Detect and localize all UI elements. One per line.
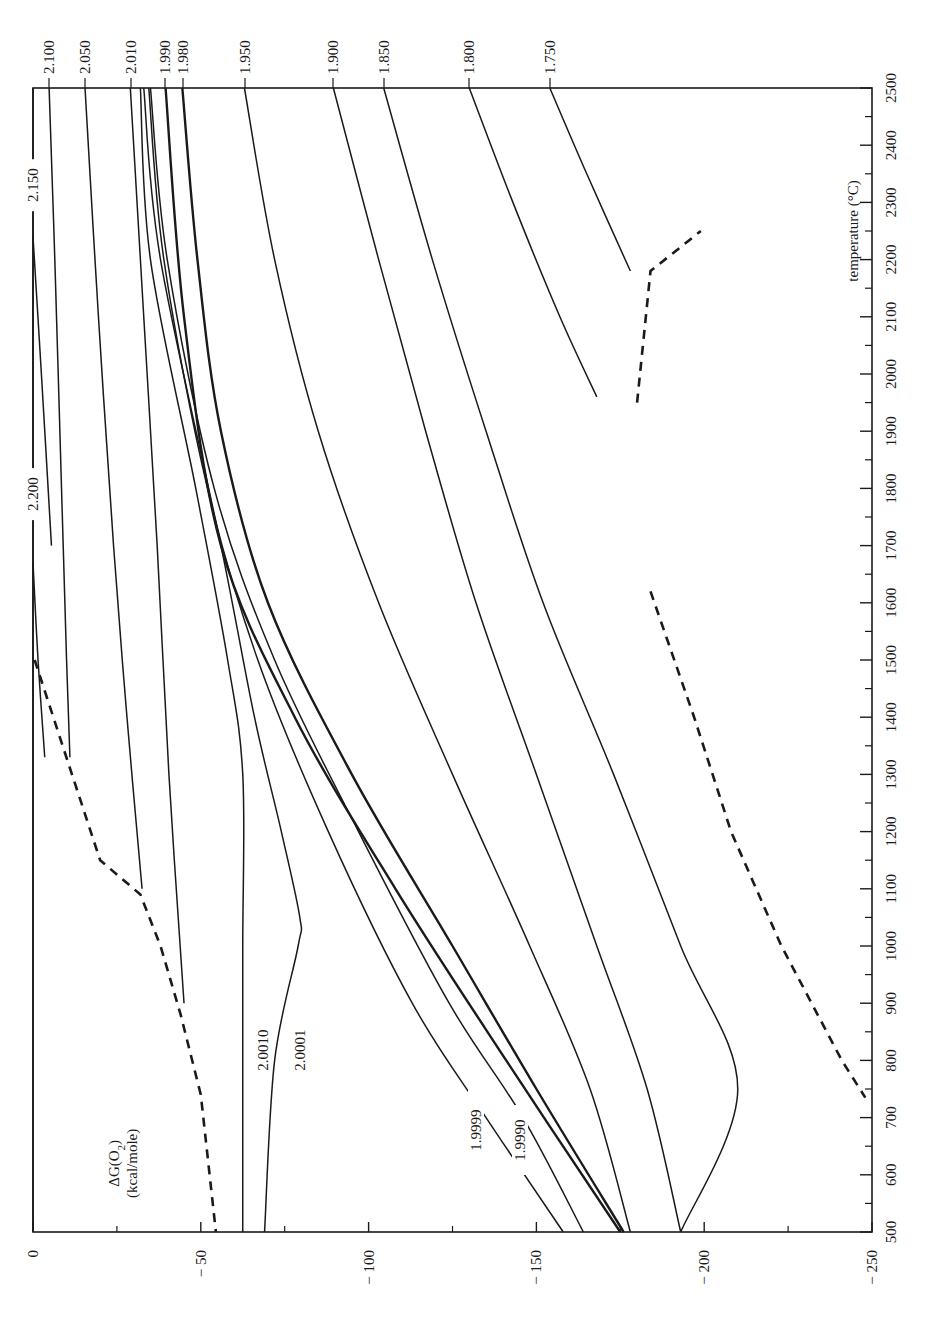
curve-label-inline: 2.0001 — [292, 1029, 308, 1070]
curve-label-top: 2.010 — [123, 40, 139, 74]
x-tick-label: 2200 — [883, 245, 899, 275]
curve-1.800 — [469, 88, 597, 397]
y-tick-label: − 50 — [193, 1250, 209, 1277]
y-tick-label: − 150 — [528, 1250, 544, 1285]
x-tick-label: 1200 — [883, 817, 899, 847]
curve-label-top: 1.750 — [542, 40, 558, 74]
x-tick-label: 1600 — [883, 588, 899, 618]
x-tick-label: 1300 — [883, 759, 899, 789]
x-tick-label: 1800 — [883, 473, 899, 503]
curve-label-inline: 1.9990 — [512, 1119, 528, 1160]
plot-frame — [33, 88, 872, 1232]
x-tick-label: 1500 — [883, 645, 899, 675]
curve-label-inline: 1.9999 — [468, 1109, 484, 1150]
y-tick-label: − 100 — [361, 1250, 377, 1285]
curve-label-top: 1.950 — [237, 40, 253, 74]
x-tick-label: 800 — [883, 1049, 899, 1072]
curve-2.100 — [49, 88, 70, 757]
x-tick-label: 1400 — [883, 702, 899, 732]
x-tick-label: 900 — [883, 992, 899, 1015]
curve-label-top: 1.990 — [157, 40, 173, 74]
x-tick-label: 2000 — [883, 359, 899, 389]
curve-layer — [33, 88, 865, 1232]
x-tick-label: 600 — [883, 1164, 899, 1187]
phase-boundary-dashed — [651, 591, 866, 1097]
curve-label-top: 1.980 — [175, 40, 191, 74]
curve-label-top: 2.100 — [41, 40, 57, 74]
x-tick-label: 1900 — [883, 416, 899, 446]
curve-1.990 — [166, 88, 621, 1232]
axis-ticks: 0− 50− 100− 150− 200− 250500600700800900… — [25, 73, 899, 1285]
chart-canvas: 0− 50− 100− 150− 200− 250500600700800900… — [0, 0, 933, 1325]
y-tick-label: − 200 — [696, 1250, 712, 1285]
curve-2.050 — [85, 88, 142, 889]
y-tick-label: 0 — [25, 1250, 41, 1258]
curve-label-edge: 2.200 — [25, 477, 41, 511]
label-layer: temperature (°C)ΔG(O2)(kcal/mole)2.1002.… — [25, 40, 862, 1198]
curve-label-top: 2.050 — [77, 40, 93, 74]
curve-label-top: 1.900 — [325, 40, 341, 74]
y-tick-label: − 250 — [864, 1250, 880, 1285]
curve-label-edge: 2.150 — [25, 168, 41, 202]
y-axis-unit: (kcal/mole) — [124, 1129, 141, 1198]
x-tick-label: 2500 — [883, 73, 899, 103]
x-tick-label: 1100 — [883, 874, 899, 903]
x-tick-label: 500 — [883, 1221, 899, 1244]
curve-1.750 — [550, 88, 631, 271]
x-tick-label: 700 — [883, 1106, 899, 1129]
phase-boundary-dashed — [637, 231, 701, 403]
x-tick-label: 2400 — [883, 130, 899, 160]
curve-label-top: 1.800 — [461, 40, 477, 74]
curve-1.850 — [384, 88, 738, 1232]
x-tick-label: 2300 — [883, 187, 899, 217]
x-axis-title: temperature (°C) — [845, 180, 862, 281]
x-tick-label: 2100 — [883, 302, 899, 332]
curve-label-top: 1.850 — [376, 40, 392, 74]
curve-label-inline: 2.0010 — [255, 1029, 271, 1070]
x-tick-label: 1700 — [883, 531, 899, 561]
curve-1.9999 — [149, 88, 563, 1232]
x-tick-label: 1000 — [883, 931, 899, 961]
